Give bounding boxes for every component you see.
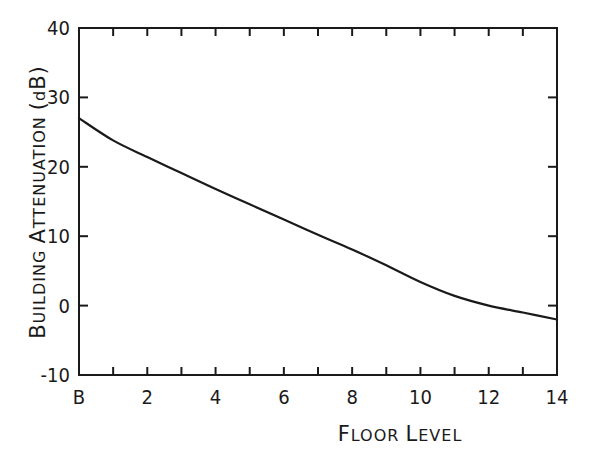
y-axis-ticks bbox=[79, 97, 557, 305]
x-tick-label: 4 bbox=[210, 385, 221, 409]
y-tick-label: 20 bbox=[47, 155, 70, 179]
attenuation-curve bbox=[79, 118, 557, 319]
y-tick-label: 0 bbox=[59, 294, 70, 318]
x-tick-label: B bbox=[73, 385, 85, 409]
y-tick-label: 10 bbox=[47, 224, 70, 248]
x-axis-title: FLOOR LEVEL bbox=[338, 422, 463, 446]
x-tick-label: 14 bbox=[546, 385, 569, 409]
y-axis-title: BUILDING ATTENUATION (dB) bbox=[26, 65, 50, 339]
x-tick-label: 6 bbox=[278, 385, 289, 409]
plot-border bbox=[79, 28, 557, 375]
x-tick-label: 2 bbox=[142, 385, 153, 409]
x-tick-label: 8 bbox=[346, 385, 357, 409]
x-tick-label: 12 bbox=[477, 385, 500, 409]
plot-frame bbox=[79, 28, 557, 375]
x-axis-tick-labels: B2468101214 bbox=[73, 385, 569, 409]
y-tick-label: 40 bbox=[47, 16, 70, 40]
y-tick-label: 30 bbox=[47, 85, 70, 109]
x-tick-label: 10 bbox=[409, 385, 432, 409]
y-tick-label: -10 bbox=[41, 363, 70, 387]
x-axis-ticks bbox=[113, 28, 523, 375]
attenuation-chart: B2468101214 -10010203040 FLOOR LEVEL BUI… bbox=[0, 0, 590, 455]
